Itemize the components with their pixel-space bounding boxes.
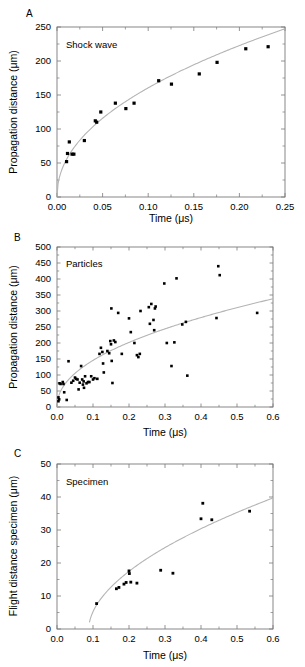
svg-text:0.2: 0.2 (122, 411, 135, 422)
panel-a-letter: A (26, 8, 33, 19)
svg-text:30: 30 (40, 524, 51, 535)
panel-b: B 0.00.10.20.30.40.50.605010015020025030… (0, 225, 305, 441)
svg-text:100: 100 (35, 123, 51, 134)
panel-c-note: Specimen (66, 476, 108, 487)
panel-b-data-points (57, 265, 258, 403)
panel-a-plot: A 0.000.050.100.150.200.2505010015020025… (0, 0, 305, 225)
svg-text:0.5: 0.5 (230, 633, 243, 644)
svg-text:50: 50 (40, 458, 51, 469)
svg-text:20: 20 (40, 557, 51, 568)
panel-b-xlabel: Time (μs) (143, 426, 187, 438)
svg-text:0.05: 0.05 (93, 201, 112, 212)
svg-text:0.3: 0.3 (158, 633, 171, 644)
svg-text:10: 10 (40, 590, 51, 601)
panel-c-plot: C 0.00.10.20.30.40.50.601020304050 Speci… (0, 441, 305, 667)
panel-c-fit-curve (89, 498, 273, 622)
svg-text:150: 150 (35, 89, 51, 100)
svg-text:0: 0 (46, 623, 51, 634)
svg-text:400: 400 (35, 273, 51, 284)
svg-text:200: 200 (35, 337, 51, 348)
svg-text:50: 50 (40, 385, 51, 396)
panel-b-fit-curve (57, 299, 273, 407)
figure-root: A 0.000.050.100.150.200.2505010015020025… (0, 0, 305, 667)
svg-text:200: 200 (35, 55, 51, 66)
svg-text:150: 150 (35, 353, 51, 364)
panel-b-note: Particles (66, 258, 103, 269)
svg-text:250: 250 (35, 321, 51, 332)
svg-text:500: 500 (35, 241, 51, 252)
panel-b-ylabel: Propagation distance (μm) (7, 265, 19, 388)
panel-c: C 0.00.10.20.30.40.50.601020304050 Speci… (0, 441, 305, 667)
svg-text:0.0: 0.0 (50, 633, 63, 644)
svg-text:0.2: 0.2 (122, 633, 135, 644)
panel-a-fit-curve (57, 29, 285, 197)
svg-text:40: 40 (40, 491, 51, 502)
svg-text:0.4: 0.4 (194, 633, 207, 644)
svg-text:0.25: 0.25 (276, 201, 295, 212)
panel-a-ylabel: Propagation distance (μm) (7, 50, 19, 173)
panel-c-data-points (95, 502, 251, 605)
svg-text:0.15: 0.15 (185, 201, 204, 212)
panel-c-letter: C (14, 448, 21, 459)
panel-c-xlabel: Time (μs) (143, 649, 187, 661)
panel-c-ylabel: Flight distance specimen (μm) (7, 476, 19, 616)
svg-text:0: 0 (46, 401, 51, 412)
svg-text:0: 0 (46, 191, 51, 202)
svg-text:0.5: 0.5 (230, 411, 243, 422)
svg-text:350: 350 (35, 289, 51, 300)
svg-text:0.3: 0.3 (158, 411, 171, 422)
svg-text:300: 300 (35, 305, 51, 316)
svg-text:0.00: 0.00 (48, 201, 67, 212)
svg-text:0.0: 0.0 (50, 411, 63, 422)
svg-text:100: 100 (35, 369, 51, 380)
panel-b-plot: B 0.00.10.20.30.40.50.605010015020025030… (0, 225, 305, 441)
svg-text:0.1: 0.1 (86, 633, 99, 644)
svg-text:50: 50 (40, 157, 51, 168)
svg-text:0.6: 0.6 (266, 633, 279, 644)
panel-a-data-points (65, 45, 270, 163)
panel-a-note: Shock wave (66, 39, 117, 50)
svg-text:0.6: 0.6 (266, 411, 279, 422)
panel-a-xlabel: Time (μs) (149, 212, 193, 224)
svg-text:0.4: 0.4 (194, 411, 207, 422)
svg-text:250: 250 (35, 21, 51, 32)
panel-a: A 0.000.050.100.150.200.2505010015020025… (0, 0, 305, 225)
svg-text:0.1: 0.1 (86, 411, 99, 422)
svg-text:0.20: 0.20 (230, 201, 249, 212)
svg-text:450: 450 (35, 257, 51, 268)
svg-text:0.10: 0.10 (139, 201, 158, 212)
panel-b-letter: B (14, 232, 21, 243)
